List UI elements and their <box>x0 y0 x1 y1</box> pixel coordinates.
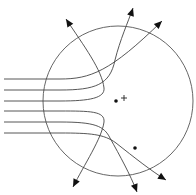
trajectory-line-t6 <box>4 133 166 180</box>
arrowhead-icon <box>63 17 73 28</box>
scattering-diagram <box>0 0 196 195</box>
arrowhead-icon <box>131 183 140 193</box>
trajectory-line-t1 <box>4 21 162 79</box>
trajectory-line-t2 <box>4 8 133 90</box>
marker-group <box>114 95 137 150</box>
point-marker-dot <box>114 99 118 103</box>
point-marker-dot <box>133 146 137 150</box>
center-plus-icon <box>121 95 127 101</box>
trajectory-line-t3 <box>4 19 104 101</box>
arrowhead-icon <box>70 178 80 188</box>
arrowhead-icon <box>127 7 136 17</box>
trajectory-line-t5 <box>4 122 137 192</box>
trajectory-group <box>4 7 168 193</box>
arrowhead-icon <box>157 173 167 183</box>
